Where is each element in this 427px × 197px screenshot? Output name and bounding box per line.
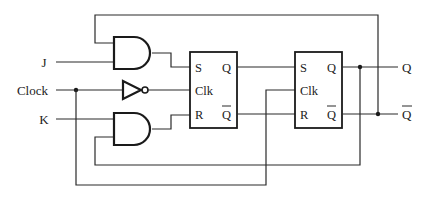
circuit-diagram: S Clk R Q Q S Clk R Q Q J Clock K Q Q [0, 0, 427, 197]
j-input-label: J [41, 55, 46, 70]
q-output-label: Q [402, 60, 412, 75]
k-gate-to-ff1-r-wire [152, 115, 190, 129]
not-gate-clock [123, 81, 141, 99]
and-gate-k [114, 113, 150, 145]
ff2-s-label: S [300, 61, 307, 75]
ff2-clk-label: Clk [300, 84, 319, 98]
ff1-clk-label: Clk [195, 84, 214, 98]
ff2-qbar-label: Q [327, 108, 336, 122]
qbar-junction-dot [376, 112, 380, 116]
inverter-bubble [142, 87, 148, 93]
k-input-label: K [39, 112, 49, 127]
q-junction-dot [358, 65, 362, 69]
ff2-r-label: R [300, 108, 309, 122]
ff2-q-label: Q [327, 61, 336, 75]
ff1-q-label: Q [222, 61, 231, 75]
clock-input-label: Clock [17, 83, 49, 98]
and-gate-j [114, 37, 150, 69]
ff1-qbar-label: Q [222, 108, 231, 122]
qbar-output-label: Q [402, 107, 412, 122]
ff1-s-label: S [195, 61, 202, 75]
j-gate-to-ff1-s-wire [152, 53, 190, 67]
ff1-r-label: R [195, 108, 204, 122]
